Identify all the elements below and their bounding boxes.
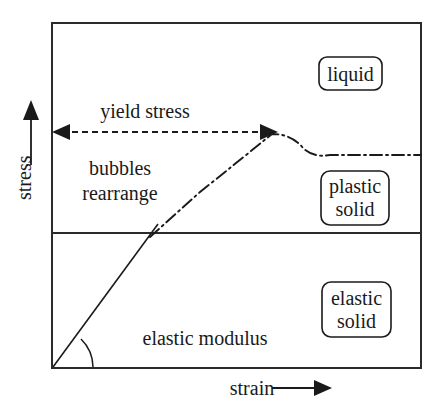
regime-label-liquid: liquid xyxy=(319,57,382,90)
regime-label-plastic-solid: plastic solid xyxy=(321,171,389,225)
plastic-solid-label-line1: plastic xyxy=(329,175,381,198)
yield-stress-arrow-head-left xyxy=(52,124,70,140)
regime-label-elastic-solid: elastic solid xyxy=(322,282,391,337)
stress-axis-label: stress xyxy=(13,155,35,200)
liquid-label: liquid xyxy=(327,63,374,86)
plastic-solid-label-line2: solid xyxy=(336,198,375,220)
figure-root: yield stress bubbles rearrange elastic m… xyxy=(0,0,444,407)
bubbles-rearrange-label-line1: bubbles xyxy=(89,157,151,179)
strain-axis-label: strain xyxy=(230,377,274,399)
yield-stress-label: yield stress xyxy=(100,100,190,123)
elastic-solid-label-line2: solid xyxy=(337,310,376,332)
stress-axis-arrow-head xyxy=(23,100,39,120)
bubbles-rearrange-label-line2: rearrange xyxy=(82,182,158,205)
elastic-modulus-angle-arc xyxy=(81,339,93,367)
stress-strain-diagram: yield stress bubbles rearrange elastic m… xyxy=(0,0,444,407)
strain-axis-arrow-head xyxy=(314,380,332,396)
elastic-modulus-label: elastic modulus xyxy=(143,327,268,349)
elastic-solid-label-line1: elastic xyxy=(331,287,382,309)
